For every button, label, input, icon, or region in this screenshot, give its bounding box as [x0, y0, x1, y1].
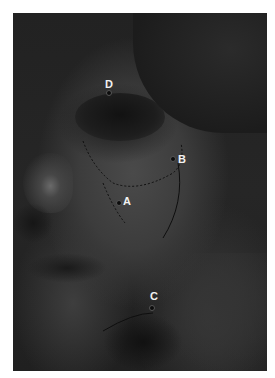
- point-b-marker: [170, 156, 176, 162]
- point-c-marker: [149, 305, 155, 311]
- surgical-markings: [13, 13, 267, 371]
- point-a-marker: [116, 200, 122, 206]
- label-a: A: [123, 196, 131, 207]
- label-d: D: [105, 79, 113, 90]
- label-b: B: [178, 154, 186, 165]
- label-c: C: [150, 291, 158, 302]
- point-d-marker: [106, 90, 112, 96]
- face-photograph: D B A C: [13, 13, 267, 371]
